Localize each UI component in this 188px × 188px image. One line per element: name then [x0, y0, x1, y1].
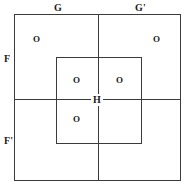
inner-square-top-edge — [56, 57, 142, 58]
inner-square-left-edge — [56, 57, 57, 144]
label-g-prime: G' — [135, 3, 146, 13]
outer-square-right-edge — [180, 14, 181, 181]
outer-square-left-edge — [14, 14, 15, 181]
label-o-inner-top-left: O — [73, 76, 80, 85]
label-f-prime: F' — [4, 136, 13, 146]
label-o-inner-top-right: O — [116, 76, 123, 85]
label-f: F — [4, 54, 10, 64]
label-o-inner-bottom-left: O — [73, 115, 80, 124]
label-g: G — [54, 3, 62, 13]
diagram-canvas: G G' F F' O O O O O H — [0, 0, 188, 188]
label-h-center: H — [91, 94, 103, 106]
inner-square-bottom-edge — [56, 143, 142, 144]
label-o-outer-top-right: O — [153, 35, 160, 44]
inner-square-right-edge — [141, 57, 142, 144]
label-o-outer-top-left: O — [33, 35, 40, 44]
